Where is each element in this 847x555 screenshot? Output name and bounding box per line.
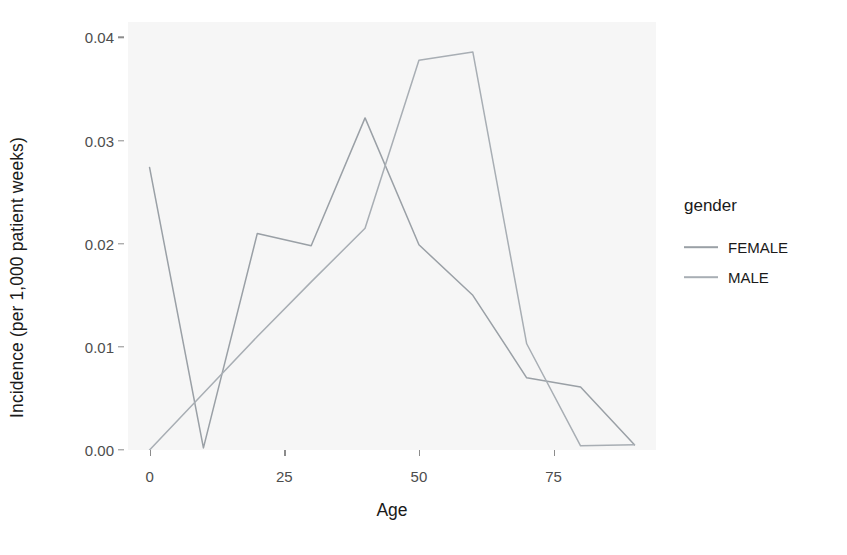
x-tick-label: 25 <box>254 468 314 485</box>
series-line-female <box>150 118 635 448</box>
x-tick-mark <box>419 450 420 456</box>
legend-item-female[interactable]: FEMALE <box>684 232 834 262</box>
y-tick-label: 0.01 <box>62 338 114 355</box>
y-tick-mark <box>118 449 124 450</box>
y-tick-label: 0.03 <box>62 132 114 149</box>
y-tick-mark <box>118 37 124 38</box>
x-tick-label: 75 <box>524 468 584 485</box>
ggplot-line-chart: Incidence (per 1,000 patient weeks) 0.00… <box>0 0 847 555</box>
legend-entries: FEMALEMALE <box>684 232 834 292</box>
legend-key-line-icon <box>684 268 718 286</box>
legend-key-line-icon <box>684 238 718 256</box>
legend-item-male[interactable]: MALE <box>684 262 834 292</box>
y-tick-mark <box>118 346 124 347</box>
x-tick-label: 0 <box>120 468 180 485</box>
y-axis-title: Incidence (per 1,000 patient weeks) <box>0 0 34 555</box>
legend-label: MALE <box>728 269 769 286</box>
legend-title: gender <box>684 196 834 216</box>
x-axis-title: Age <box>128 500 656 521</box>
plot-lines-svg <box>128 22 656 450</box>
legend-label: FEMALE <box>728 239 788 256</box>
plot-panel <box>128 22 656 450</box>
x-tick-label: 50 <box>389 468 449 485</box>
x-tick-mark <box>150 450 151 456</box>
y-tick-label: 0.00 <box>62 442 114 459</box>
y-tick-label: 0.02 <box>62 235 114 252</box>
x-tick-mark <box>284 450 285 456</box>
x-tick-mark <box>554 450 555 456</box>
y-tick-mark <box>118 243 124 244</box>
y-tick-mark <box>118 140 124 141</box>
y-tick-label: 0.04 <box>62 29 114 46</box>
series-line-male <box>150 52 635 450</box>
legend: gender FEMALEMALE <box>684 196 834 292</box>
y-axis-tick-labels: 0.000.010.020.030.04 <box>62 0 114 555</box>
